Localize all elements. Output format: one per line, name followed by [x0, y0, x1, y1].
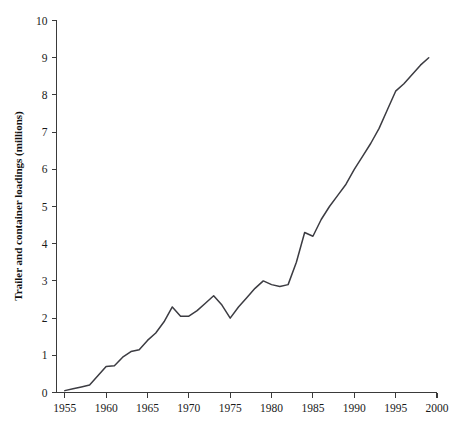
y-axis-tick-labels: 012345678910 — [36, 15, 48, 399]
x-axis-ticks — [65, 393, 437, 398]
axes-group — [57, 21, 438, 393]
x-axis-tick-label: 1980 — [260, 402, 283, 414]
x-axis-tick-label: 1960 — [95, 402, 118, 414]
y-axis-tick-label: 7 — [42, 126, 48, 138]
y-axis-tick-label: 4 — [42, 238, 48, 250]
y-axis-tick-label: 8 — [42, 89, 48, 101]
y-axis-tick-label: 10 — [36, 15, 48, 27]
x-axis-tick-labels: 1955196019651970197519801985199019952000 — [53, 402, 448, 414]
chart-container: 012345678910 195519601965197019751980198… — [0, 0, 456, 428]
data-series-line — [65, 58, 429, 391]
y-axis-tick-label: 1 — [42, 349, 48, 361]
y-axis-ticks — [52, 21, 57, 393]
y-axis-tick-label: 3 — [42, 275, 48, 287]
x-axis-tick-label: 1965 — [136, 402, 159, 414]
y-axis-tick-label: 2 — [42, 312, 48, 324]
y-axis-tick-label: 5 — [42, 201, 48, 213]
x-axis-tick-label: 2000 — [426, 402, 449, 414]
y-axis-title: Trailer and container loadings (millions… — [12, 111, 25, 301]
x-axis-tick-label: 1975 — [219, 402, 242, 414]
x-axis-tick-label: 1955 — [53, 402, 76, 414]
y-axis-tick-label: 9 — [42, 52, 48, 64]
x-axis-tick-label: 1985 — [301, 402, 324, 414]
x-axis-tick-label: 1990 — [343, 402, 366, 414]
x-axis-tick-label: 1995 — [384, 402, 407, 414]
y-axis-tick-label: 6 — [42, 163, 48, 175]
y-axis-tick-label: 0 — [42, 387, 48, 399]
line-chart: 012345678910 195519601965197019751980198… — [0, 0, 456, 428]
x-axis-tick-label: 1970 — [177, 402, 200, 414]
